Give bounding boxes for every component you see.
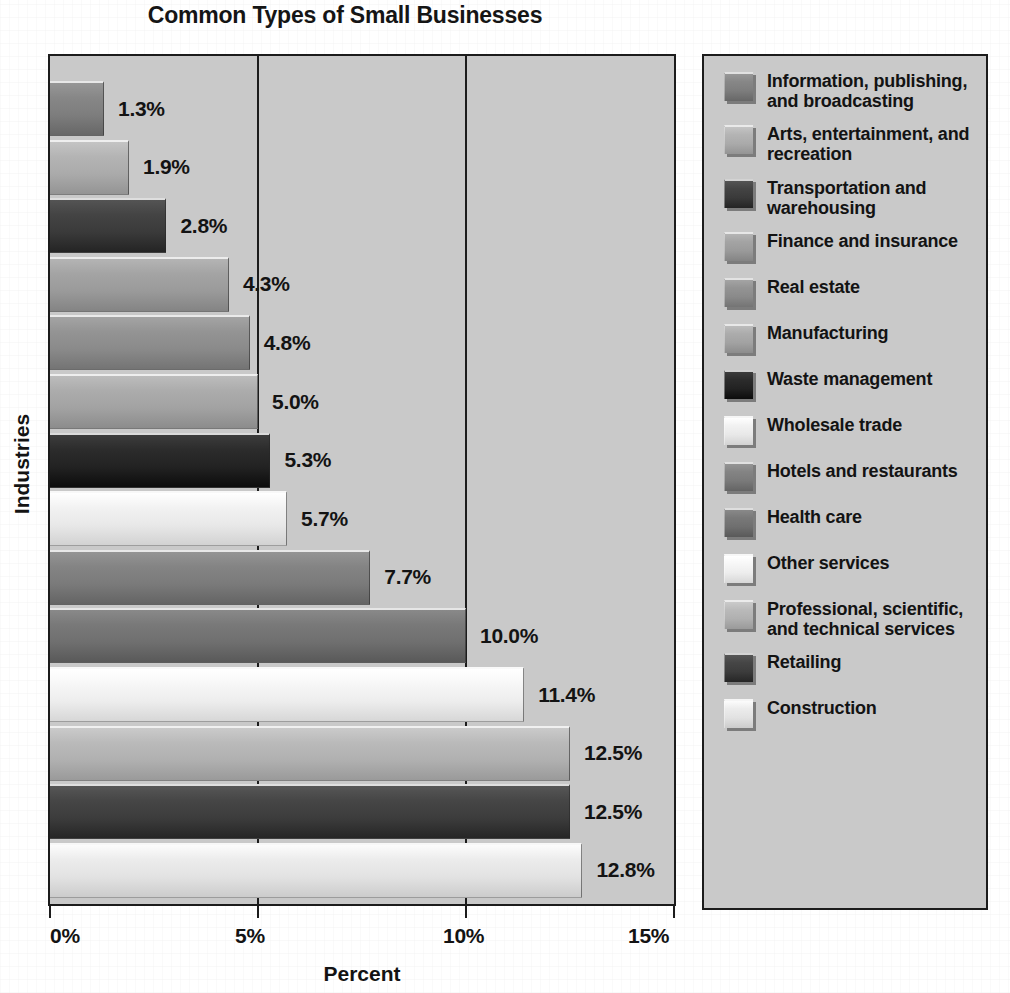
legend-swatch-icon — [724, 508, 753, 537]
bar-row: 5.0% — [50, 374, 674, 429]
bar[interactable] — [50, 140, 129, 195]
x-tick-label: 15% — [628, 924, 669, 948]
bar[interactable] — [50, 257, 229, 312]
bar-value-label: 5.0% — [272, 390, 319, 414]
legend-item-label: Manufacturing — [767, 322, 888, 343]
legend-item[interactable]: Waste management — [724, 368, 978, 402]
bar-value-label: 5.3% — [284, 448, 331, 472]
bar[interactable] — [50, 315, 250, 370]
bar-row: 4.3% — [50, 257, 674, 312]
legend-item[interactable]: Arts, entertainment, and recreation — [724, 123, 978, 164]
legend-item-label: Real estate — [767, 276, 860, 297]
legend-swatch-icon — [724, 462, 753, 491]
bar-value-label: 1.9% — [143, 155, 190, 179]
x-tick-mark — [673, 906, 675, 918]
legend-item-label: Transportation and warehousing — [767, 177, 978, 218]
legend-item[interactable]: Real estate — [724, 276, 978, 310]
legend-item[interactable]: Manufacturing — [724, 322, 978, 356]
bar[interactable] — [50, 784, 570, 839]
legend-item[interactable]: Finance and insurance — [724, 230, 978, 264]
bar-value-label: 12.5% — [584, 800, 642, 824]
legend-swatch-icon — [724, 699, 753, 728]
bar-value-label: 11.4% — [538, 683, 595, 707]
legend-item[interactable]: Information, publishing, and broadcastin… — [724, 70, 978, 111]
bar-row: 4.8% — [50, 315, 674, 370]
chart-title: Common Types of Small Businesses — [0, 2, 690, 29]
legend-swatch-icon — [724, 232, 753, 261]
legend-swatch-icon — [724, 278, 753, 307]
bar-row: 11.4% — [50, 667, 674, 722]
bar-value-label: 12.8% — [596, 858, 654, 882]
bar-row: 1.3% — [50, 81, 674, 136]
bar-row: 2.8% — [50, 198, 674, 253]
x-axis-title: Percent — [48, 962, 676, 986]
legend-swatch-icon — [724, 125, 753, 154]
legend-swatch-icon — [724, 600, 753, 629]
legend-swatch-icon — [724, 554, 753, 583]
legend-item[interactable]: Other services — [724, 552, 978, 586]
bar-row: 1.9% — [50, 140, 674, 195]
bar[interactable] — [50, 726, 570, 781]
bar-value-label: 5.7% — [301, 507, 348, 531]
legend-item-label: Retailing — [767, 651, 841, 672]
bar[interactable] — [50, 198, 166, 253]
bar-row: 5.3% — [50, 433, 674, 488]
legend-item-label: Health care — [767, 506, 862, 527]
legend-item[interactable]: Construction — [724, 697, 978, 731]
legend-swatch-icon — [724, 324, 753, 353]
bar-row: 5.7% — [50, 491, 674, 546]
bar-value-label: 10.0% — [480, 624, 538, 648]
legend-item-label: Construction — [767, 697, 877, 718]
bar[interactable] — [50, 374, 258, 429]
bar-row: 10.0% — [50, 608, 674, 663]
legend-box: Information, publishing, and broadcastin… — [702, 54, 988, 910]
bar[interactable] — [50, 491, 287, 546]
plot-inner: 1.3%1.9%2.8%4.3%4.8%5.0%5.3%5.7%7.7%10.0… — [50, 56, 674, 904]
legend-swatch-icon — [724, 370, 753, 399]
legend-swatch-icon — [724, 653, 753, 682]
x-tick-mark — [49, 906, 51, 918]
x-tick-mark — [465, 906, 467, 918]
bar[interactable] — [50, 667, 524, 722]
x-tick-label: 5% — [235, 924, 265, 948]
legend-swatch-icon — [724, 72, 753, 101]
legend-list: Information, publishing, and broadcastin… — [724, 70, 978, 743]
bar[interactable] — [50, 550, 370, 605]
legend-item-label: Other services — [767, 552, 889, 573]
bar[interactable] — [50, 81, 104, 136]
legend-item-label: Information, publishing, and broadcastin… — [767, 70, 978, 111]
x-tick-label: 10% — [443, 924, 484, 948]
bar-value-label: 12.5% — [584, 741, 642, 765]
x-tick-label: 0% — [50, 924, 80, 948]
legend-item[interactable]: Transportation and warehousing — [724, 177, 978, 218]
plot-area: 1.3%1.9%2.8%4.3%4.8%5.0%5.3%5.7%7.7%10.0… — [48, 54, 676, 906]
legend-swatch-icon — [724, 416, 753, 445]
legend-item[interactable]: Professional, scientific, and technical … — [724, 598, 978, 639]
bar-row: 12.5% — [50, 726, 674, 781]
bar[interactable] — [50, 608, 466, 663]
legend-item[interactable]: Hotels and restaurants — [724, 460, 978, 494]
bar-row: 12.5% — [50, 784, 674, 839]
bar-value-label: 1.3% — [118, 97, 165, 121]
bar-row: 7.7% — [50, 550, 674, 605]
legend-item[interactable]: Retailing — [724, 651, 978, 685]
legend-swatch-icon — [724, 179, 753, 208]
legend-item-label: Waste management — [767, 368, 932, 389]
bar[interactable] — [50, 843, 582, 898]
bar-value-label: 4.3% — [243, 272, 290, 296]
legend-item-label: Arts, entertainment, and recreation — [767, 123, 978, 164]
legend-item-label: Professional, scientific, and technical … — [767, 598, 978, 639]
legend-item[interactable]: Wholesale trade — [724, 414, 978, 448]
legend-item-label: Finance and insurance — [767, 230, 958, 251]
bar-value-label: 4.8% — [264, 331, 311, 355]
bar-row: 12.8% — [50, 843, 674, 898]
legend-item-label: Hotels and restaurants — [767, 460, 958, 481]
bar-value-label: 2.8% — [180, 214, 227, 238]
legend-item[interactable]: Health care — [724, 506, 978, 540]
bar-value-label: 7.7% — [384, 565, 431, 589]
legend-item-label: Wholesale trade — [767, 414, 902, 435]
y-axis-title: Industries — [10, 404, 34, 524]
x-tick-mark — [257, 906, 259, 918]
bar[interactable] — [50, 433, 270, 488]
